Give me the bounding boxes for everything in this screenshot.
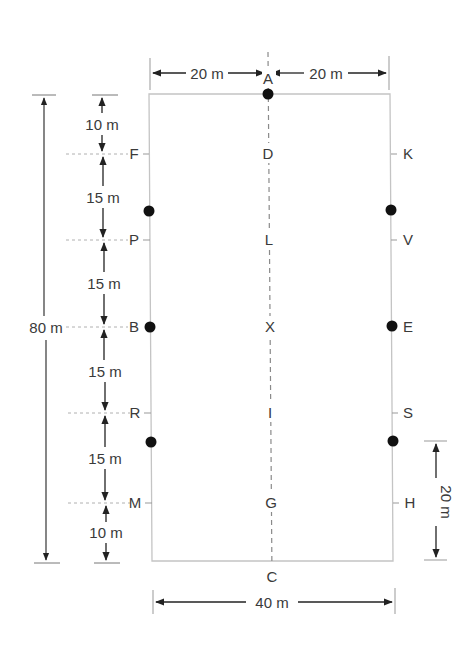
letter-a-overlay: A	[263, 70, 273, 87]
dressage-arena-diagram: 20 m 20 m A C 40 m 80 m	[0, 0, 475, 646]
marker-dots	[144, 89, 399, 448]
letter-k: K	[403, 145, 413, 162]
letter-h: H	[405, 494, 416, 511]
segment-label-1: 10 m	[85, 116, 118, 133]
dot-right-upper	[386, 205, 397, 216]
letter-c-overlay: C	[267, 568, 278, 585]
left-segment-dimensions	[66, 95, 130, 563]
overall-length-label: 80 m	[29, 319, 62, 336]
top-right-dimension-label: 20 m	[309, 65, 342, 82]
letter-d: D	[263, 145, 274, 162]
segment-label-3: 15 m	[87, 275, 120, 292]
letter-v: V	[403, 231, 413, 248]
letter-g: G	[265, 494, 277, 511]
dot-e	[387, 321, 398, 332]
bottom-dimension-label: 40 m	[255, 594, 288, 611]
segment-label-4: 15 m	[88, 363, 121, 380]
letter-e: E	[403, 318, 413, 335]
letter-r: R	[130, 404, 141, 421]
letter-l: L	[265, 231, 273, 248]
letter-f: F	[129, 145, 138, 162]
letter-p: P	[129, 231, 139, 248]
letter-m: M	[129, 494, 142, 511]
letter-s: S	[403, 404, 413, 421]
letter-b: B	[129, 318, 139, 335]
letter-x: X	[265, 318, 275, 335]
top-left-dimension-label: 20 m	[190, 65, 223, 82]
dot-left-upper	[144, 206, 155, 217]
letter-i: I	[268, 404, 272, 421]
segment-label-6: 10 m	[89, 524, 122, 541]
segment-label-2: 15 m	[86, 189, 119, 206]
dot-left-lower	[146, 437, 157, 448]
segment-label-5: 15 m	[88, 450, 121, 467]
dot-b	[145, 322, 156, 333]
dot-a	[263, 89, 274, 100]
dot-right-lower	[388, 436, 399, 447]
right-segment-label: 20 m	[438, 485, 455, 518]
